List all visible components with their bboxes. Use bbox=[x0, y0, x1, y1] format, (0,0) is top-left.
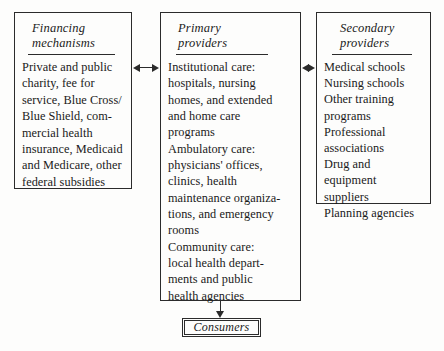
diagram-canvas: Financing mechanisms Private and public … bbox=[0, 0, 444, 351]
arrow-head-down-icon bbox=[216, 311, 224, 318]
box-primary-providers: Primary providers Institutional care: ho… bbox=[160, 12, 301, 301]
connector-left-endcap bbox=[131, 62, 132, 73]
connector-left-endcap bbox=[300, 62, 301, 73]
arrow-head-right-icon bbox=[152, 64, 159, 72]
box-financing-body: Private and public charity, fee for serv… bbox=[22, 59, 125, 190]
box-secondary-providers: Secondary providers Medical schools Nurs… bbox=[316, 12, 431, 204]
box-consumers-inner-rule: Consumers bbox=[184, 320, 259, 335]
box-consumers: Consumers bbox=[182, 318, 261, 337]
box-financing-heading: Financing mechanisms bbox=[28, 19, 115, 55]
box-secondary-body: Medical schools Nursing schools Other tr… bbox=[324, 59, 424, 221]
box-primary-heading: Primary providers bbox=[176, 19, 268, 55]
connector-primary-to-consumers bbox=[216, 301, 225, 318]
arrow-head-left-icon bbox=[133, 64, 140, 72]
box-consumers-label: Consumers bbox=[194, 321, 250, 334]
box-primary-body: Institutional care: hospitals, nursing h… bbox=[168, 59, 294, 304]
box-financing-mechanisms: Financing mechanisms Private and public … bbox=[14, 12, 132, 189]
box-secondary-heading: Secondary providers bbox=[332, 19, 412, 55]
connector-primary-to-secondary bbox=[300, 62, 317, 73]
arrow-head-right-icon bbox=[308, 64, 315, 72]
connector-financing-to-primary bbox=[131, 62, 161, 73]
